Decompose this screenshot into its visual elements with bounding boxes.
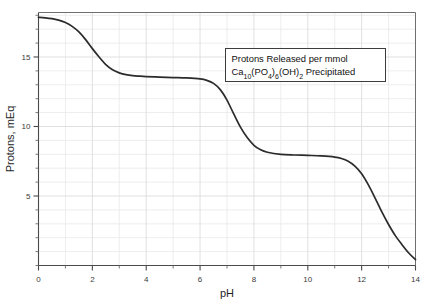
- y-axis-title: Protons, mEq: [4, 106, 16, 173]
- x-tick-label: 6: [198, 275, 203, 284]
- annotation-line-1: Protons Released per mmol: [232, 53, 348, 64]
- chart-canvas: 0246810121451015 pHProtons, mEq Protons …: [0, 0, 432, 299]
- x-axis-title: pH: [220, 287, 234, 299]
- x-tick-label: 8: [252, 275, 257, 284]
- x-tick-label: 0: [36, 275, 41, 284]
- x-tick-label: 2: [90, 275, 95, 284]
- y-tick-label: 10: [22, 122, 31, 131]
- chart-page: 0246810121451015 pHProtons, mEq Protons …: [0, 0, 432, 299]
- y-tick-label: 15: [22, 53, 31, 62]
- x-tick-label: 14: [411, 275, 420, 284]
- x-tick-label: 4: [144, 275, 149, 284]
- annotation-box: Protons Released per mmolCa10(PO4)6(OH)2…: [226, 49, 386, 82]
- y-tick-label: 5: [26, 192, 31, 201]
- x-tick-label: 10: [303, 275, 312, 284]
- x-tick-label: 12: [357, 275, 366, 284]
